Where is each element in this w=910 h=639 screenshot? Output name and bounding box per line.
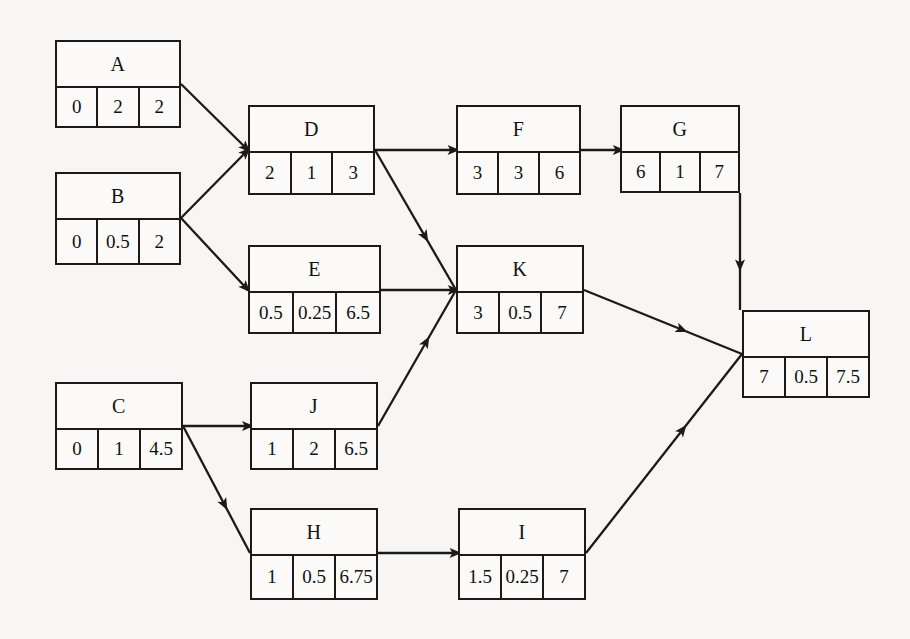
node-f-cell-2: 6 bbox=[540, 153, 579, 193]
node-j-cell-0: 1 bbox=[252, 430, 294, 468]
node-g-cell-2: 7 bbox=[701, 153, 738, 191]
node-d-cell-1: 1 bbox=[292, 153, 334, 193]
edge-g-l-arrowhead-icon bbox=[735, 260, 745, 272]
node-b-cell-1: 0.5 bbox=[98, 220, 139, 263]
node-g-cells: 617 bbox=[622, 153, 738, 191]
node-j[interactable]: J126.5 bbox=[250, 382, 378, 470]
edge-j-k bbox=[378, 290, 456, 426]
node-d-cell-0: 2 bbox=[250, 153, 292, 193]
node-h-cell-0: 1 bbox=[252, 556, 294, 598]
edge-c-h bbox=[183, 426, 250, 553]
node-b-cell-2: 2 bbox=[140, 220, 179, 263]
node-h-cell-2: 6.75 bbox=[336, 556, 376, 598]
node-k-cell-1: 0.5 bbox=[500, 293, 542, 332]
edge-i-l-arrowhead-icon bbox=[675, 422, 690, 438]
node-h-label: H bbox=[252, 510, 376, 556]
node-c-cell-1: 1 bbox=[99, 430, 141, 468]
node-l-cell-2: 7.5 bbox=[828, 358, 868, 396]
node-e-cell-1: 0.25 bbox=[294, 293, 338, 332]
node-f-cell-1: 3 bbox=[499, 153, 540, 193]
node-f-label: F bbox=[458, 107, 579, 153]
node-j-label: J bbox=[252, 384, 376, 430]
node-d-cell-2: 3 bbox=[333, 153, 373, 193]
node-k-label: K bbox=[458, 247, 582, 293]
edge-k-l-arrowhead-icon bbox=[675, 323, 690, 337]
node-e-cells: 0.50.256.5 bbox=[250, 293, 379, 332]
edge-a-d bbox=[181, 84, 248, 150]
node-g-label: G bbox=[622, 107, 738, 153]
node-g[interactable]: G617 bbox=[620, 105, 740, 193]
node-f-cells: 336 bbox=[458, 153, 579, 193]
node-c-cell-2: 4.5 bbox=[141, 430, 181, 468]
node-b-cell-0: 0 bbox=[57, 220, 98, 263]
node-j-cell-2: 6.5 bbox=[336, 430, 376, 468]
node-j-cells: 126.5 bbox=[252, 430, 376, 468]
node-c[interactable]: C014.5 bbox=[55, 382, 183, 470]
node-k-cells: 30.57 bbox=[458, 293, 582, 332]
node-d-label: D bbox=[250, 107, 373, 153]
node-i-cell-0: 1.5 bbox=[460, 556, 502, 598]
edge-b-e bbox=[181, 218, 248, 290]
edge-j-k-arrowhead-icon bbox=[419, 334, 434, 349]
node-a-cell-2: 2 bbox=[140, 88, 179, 126]
node-g-cell-0: 6 bbox=[622, 153, 661, 191]
edge-i-l bbox=[586, 354, 742, 553]
node-a-cell-1: 2 bbox=[98, 88, 139, 126]
node-h[interactable]: H10.56.75 bbox=[250, 508, 378, 600]
edge-b-d bbox=[181, 150, 248, 218]
node-h-cell-1: 0.5 bbox=[294, 556, 336, 598]
node-b-label: B bbox=[57, 174, 179, 220]
node-d-cells: 213 bbox=[250, 153, 373, 193]
node-a-label: A bbox=[57, 42, 179, 88]
node-k-cell-2: 7 bbox=[542, 293, 582, 332]
node-l-cell-0: 7 bbox=[744, 358, 786, 396]
node-l[interactable]: L70.57.5 bbox=[742, 310, 870, 398]
node-i-cell-2: 7 bbox=[544, 556, 584, 598]
node-j-cell-1: 2 bbox=[294, 430, 336, 468]
node-e-cell-2: 6.5 bbox=[337, 293, 379, 332]
node-e-cell-0: 0.5 bbox=[250, 293, 294, 332]
node-l-label: L bbox=[744, 312, 868, 358]
node-e-label: E bbox=[250, 247, 379, 293]
node-c-cell-0: 0 bbox=[57, 430, 99, 468]
node-k-cell-0: 3 bbox=[458, 293, 500, 332]
node-c-label: C bbox=[57, 384, 181, 430]
node-l-cell-1: 0.5 bbox=[786, 358, 828, 396]
node-a-cell-0: 0 bbox=[57, 88, 98, 126]
node-i-label: I bbox=[460, 510, 584, 556]
edge-k-l bbox=[584, 290, 742, 354]
edge-d-k bbox=[375, 150, 456, 290]
node-b-cells: 00.52 bbox=[57, 220, 179, 263]
node-c-cells: 014.5 bbox=[57, 430, 181, 468]
node-i[interactable]: I1.50.257 bbox=[458, 508, 586, 600]
node-a[interactable]: A022 bbox=[55, 40, 181, 128]
node-f-cell-0: 3 bbox=[458, 153, 499, 193]
node-g-cell-1: 1 bbox=[661, 153, 700, 191]
node-k[interactable]: K30.57 bbox=[456, 245, 584, 334]
node-d[interactable]: D213 bbox=[248, 105, 375, 195]
node-h-cells: 10.56.75 bbox=[252, 556, 376, 598]
node-i-cells: 1.50.257 bbox=[460, 556, 584, 598]
network-diagram-canvas: A022B00.52C014.5D213E0.50.256.5F336G617J… bbox=[0, 0, 910, 639]
node-f[interactable]: F336 bbox=[456, 105, 581, 195]
node-i-cell-1: 0.25 bbox=[502, 556, 544, 598]
edge-c-h-arrowhead-icon bbox=[217, 497, 231, 512]
node-b[interactable]: B00.52 bbox=[55, 172, 181, 265]
node-e[interactable]: E0.50.256.5 bbox=[248, 245, 381, 334]
node-l-cells: 70.57.5 bbox=[744, 358, 868, 396]
node-a-cells: 022 bbox=[57, 88, 179, 126]
edge-d-k-arrowhead-icon bbox=[418, 229, 433, 244]
